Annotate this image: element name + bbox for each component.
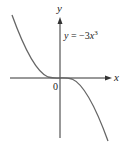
x-axis-label: x [113, 71, 119, 83]
y-axis-label: y [56, 2, 62, 14]
equation-exponent: 3 [94, 29, 98, 37]
equation-label: y = −3x3 [63, 29, 98, 41]
y-axis-arrow-icon [58, 17, 63, 24]
equation-coefficient: = −3 [68, 30, 89, 41]
origin-label: 0 [53, 81, 58, 92]
x-axis-arrow-icon [105, 76, 112, 81]
graph-canvas: y x 0 y = −3x3 [0, 0, 127, 149]
